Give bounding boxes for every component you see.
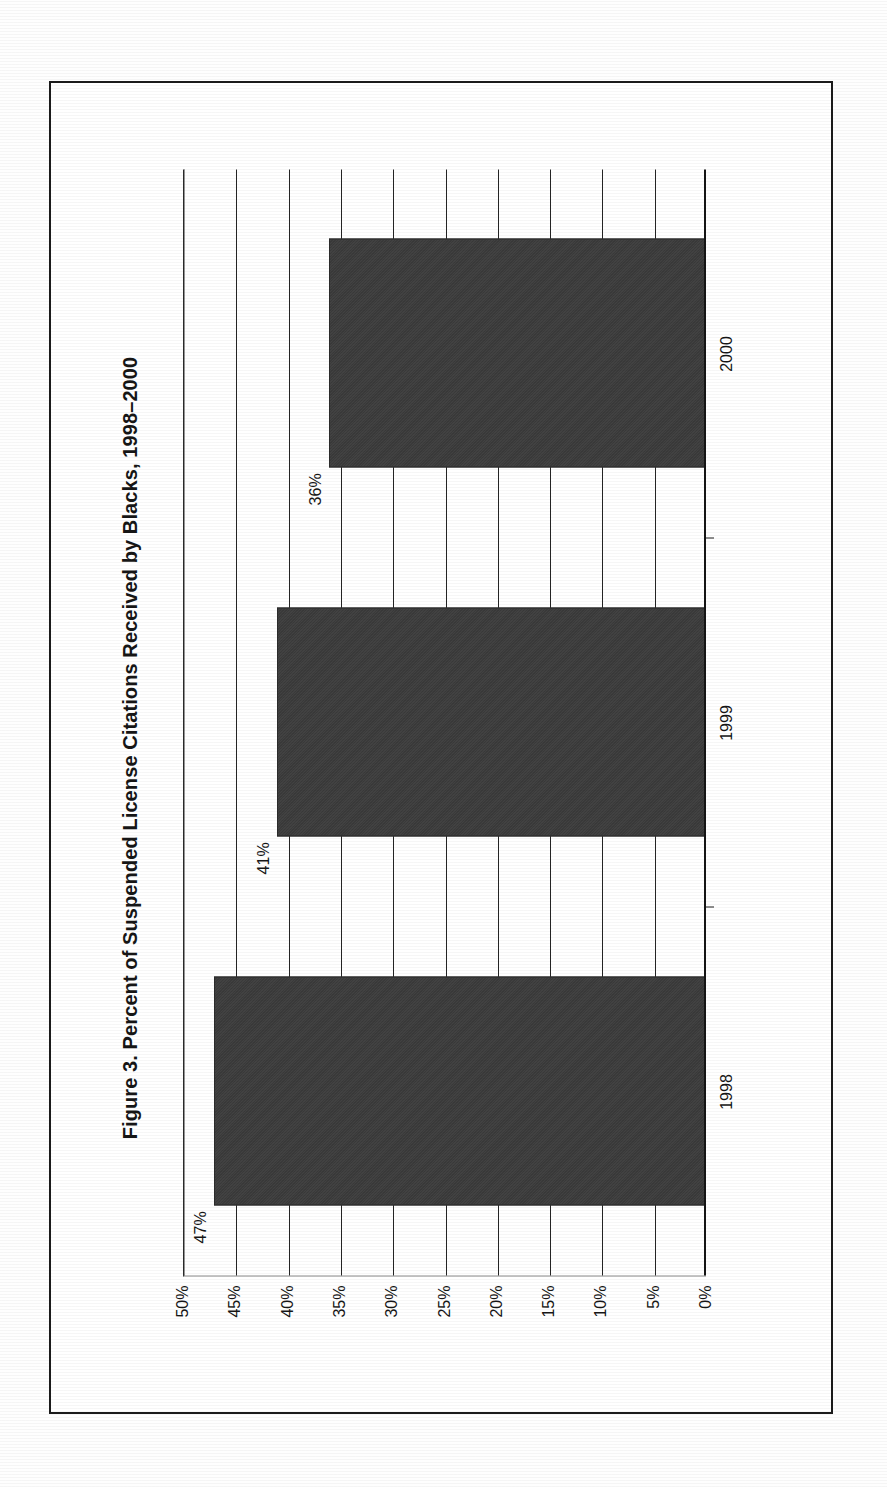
bar-value-label: 41%: [255, 842, 273, 874]
value-axis-tick-label: 30%: [383, 1276, 401, 1317]
category-axis: 199819992000: [706, 169, 766, 1276]
category-axis-tick-mark: [706, 537, 714, 538]
value-axis-tick-label: 40%: [279, 1276, 297, 1317]
figure-frame: Figure 3. Percent of Suspended License C…: [49, 81, 833, 1414]
bar-value-label: 47%: [192, 1211, 210, 1243]
gridline: [184, 169, 185, 1275]
scanned-page: Figure 3. Percent of Suspended License C…: [0, 0, 887, 1487]
category-axis-tick-label: 1998: [718, 1074, 736, 1110]
value-axis-tick-label: 35%: [331, 1276, 349, 1317]
plot-inner: 47%41%36%: [184, 169, 706, 1275]
bar: [329, 238, 706, 467]
value-axis-tick-label: 50%: [174, 1276, 192, 1317]
value-axis-tick-label: 0%: [697, 1276, 715, 1308]
value-axis-tick-label: 20%: [488, 1276, 506, 1317]
value-axis: 0%5%10%15%20%25%30%35%40%45%50%: [183, 1276, 706, 1371]
category-axis-tick-label: 1999: [718, 705, 736, 741]
value-axis-tick-label: 45%: [226, 1276, 244, 1317]
value-axis-tick-label: 10%: [592, 1276, 610, 1317]
bar: [214, 976, 706, 1205]
plot-area: 47%41%36%: [183, 169, 706, 1276]
value-axis-tick-label: 25%: [436, 1276, 454, 1317]
value-axis-tick-label: 5%: [645, 1276, 663, 1308]
value-axis-tick-label: 15%: [540, 1276, 558, 1317]
bar-value-label: 36%: [307, 473, 325, 505]
bar: [277, 607, 706, 836]
category-axis-tick-label: 2000: [718, 336, 736, 372]
rotated-chart-container: Figure 3. Percent of Suspended License C…: [91, 124, 791, 1371]
chart-title: Figure 3. Percent of Suspended License C…: [119, 124, 142, 1371]
category-axis-tick-mark: [706, 906, 714, 907]
